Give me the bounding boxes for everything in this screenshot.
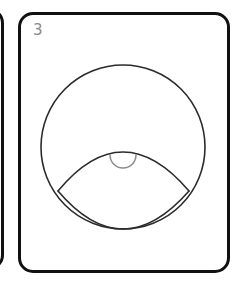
adjacent-card-partial: [0, 8, 4, 270]
card-index-label: 3: [33, 23, 43, 38]
puzzle-card[interactable]: 3: [18, 12, 230, 273]
puzzle-canvas: 3: [0, 0, 239, 281]
